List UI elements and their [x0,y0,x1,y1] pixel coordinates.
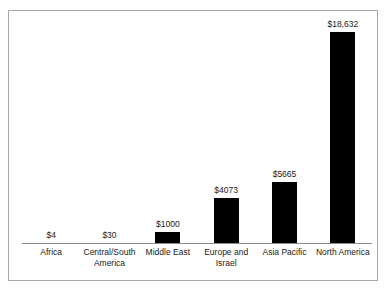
bar [214,198,239,243]
bar-value-label: $4073 [214,185,238,196]
bar-value-label: $30 [102,230,116,241]
category-label-central-south-america: Central/SouthAmerica [80,247,138,269]
bar [330,32,355,243]
bar-column-middle-east: $1000 [139,14,197,243]
bar-value-label: $4 [46,230,55,241]
bar-column-africa: $4 [22,14,80,243]
bar-series: $4 $30 $1000 $4073 $5665 $18,632 [22,14,372,243]
bar-value-label: $5665 [273,169,297,180]
bar-column-north-america: $18,632 [314,14,372,243]
bar-column-asia-pacific: $5665 [255,14,313,243]
bar-value-label: $18,632 [327,19,358,30]
category-label-middle-east: Middle East [139,247,197,269]
bar-column-europe-and-israel: $4073 [197,14,255,243]
category-label-north-america: North America [314,247,372,269]
x-axis-line [22,243,372,244]
x-axis-category-labels: Africa Central/SouthAmerica Middle East … [22,247,372,269]
bar-value-label: $1000 [156,219,180,230]
bar-column-central-south-america: $30 [80,14,138,243]
category-label-asia-pacific: Asia Pacific [255,247,313,269]
bar [155,232,180,243]
category-label-europe-and-israel: Europe andIsrael [197,247,255,269]
bar [272,182,297,243]
chart-figure: $4 $30 $1000 $4073 $5665 $18,632 Africa … [0,0,387,289]
category-label-africa: Africa [22,247,80,269]
